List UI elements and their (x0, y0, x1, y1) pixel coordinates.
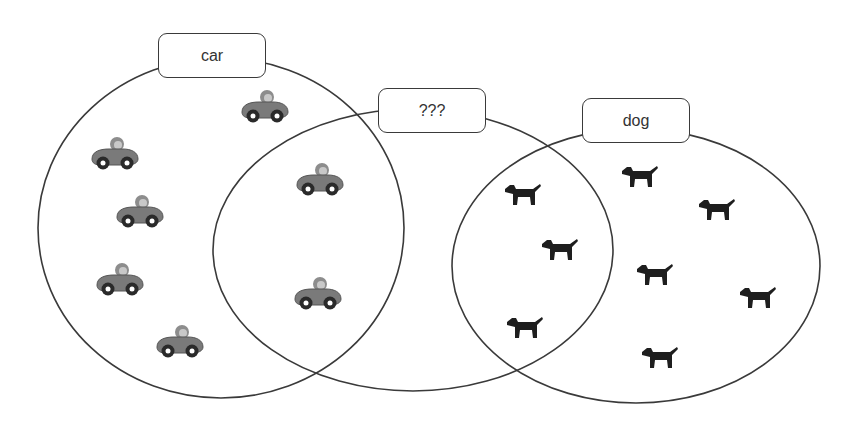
label-dog-text: dog (623, 112, 650, 130)
label-unknown: ??? (378, 88, 486, 133)
car-icon (157, 325, 203, 358)
dog-icon (637, 264, 673, 285)
car-icon (295, 277, 341, 310)
dog-icon (642, 347, 678, 368)
car-icon (297, 163, 343, 196)
label-car: car (158, 33, 266, 78)
venn-diagram (0, 0, 856, 424)
set-car-circle (38, 58, 404, 398)
label-car-text: car (201, 47, 223, 65)
dog-icon (505, 184, 541, 205)
label-dog: dog (582, 98, 690, 143)
dog-icon (542, 239, 578, 260)
set-dog-circle (452, 129, 820, 403)
car-icon (92, 137, 138, 170)
dog-icon (507, 317, 543, 338)
dog-icon (699, 199, 735, 220)
dog-icon (740, 287, 776, 308)
car-icon (97, 263, 143, 296)
car-icon (242, 90, 288, 123)
car-icon (117, 195, 163, 228)
dog-icon (622, 166, 658, 187)
label-unknown-text: ??? (419, 102, 446, 120)
